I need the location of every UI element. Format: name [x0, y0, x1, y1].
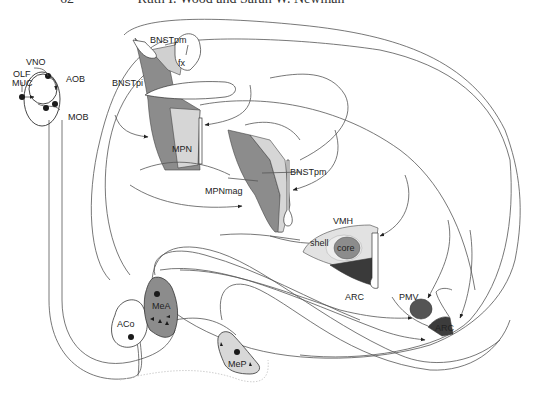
label-arc-pmv: ARC	[435, 323, 455, 333]
label-arc-vmh: ARC	[345, 292, 365, 302]
arc-pmv-border	[436, 288, 452, 318]
mob-dot	[43, 105, 49, 111]
mea-dot	[154, 291, 160, 297]
label-aco: ACo	[117, 319, 135, 329]
accessory-olfactory-bulb	[29, 74, 57, 104]
label-mep: MeP	[228, 359, 247, 369]
label-aob: AOB	[66, 74, 85, 84]
label-shell: shell	[310, 238, 329, 248]
pathway-mid-arc-branch	[270, 74, 348, 160]
label-bnstpi: BNSTpi	[112, 78, 143, 88]
arrow-to-vmh	[380, 175, 409, 236]
figure: 62 Ruth I. Wood and Sarah W. Newman	[0, 0, 536, 408]
label-pmv: PMV	[399, 292, 419, 302]
label-fx: fx	[178, 58, 186, 68]
label-vmh: VMH	[333, 216, 353, 226]
label-mpnmag: MPNmag	[205, 186, 243, 196]
mid-base-line	[220, 234, 300, 240]
aco-dot	[128, 334, 134, 340]
label-vno: VNO	[26, 57, 46, 67]
arrow-to-pmv	[428, 220, 450, 298]
arrow-mea-to-arc	[160, 268, 425, 340]
label-mea: MeA	[152, 301, 171, 311]
olf-dot	[19, 94, 25, 100]
label-bnstpm-mid: BNSTpm	[290, 167, 327, 177]
label-core: core	[337, 243, 355, 253]
third-ventricle-mpn	[199, 118, 202, 164]
label-muc: MUC	[12, 78, 33, 88]
label-mpn: MPN	[172, 144, 192, 154]
arrow-to-bnstpi	[115, 115, 148, 137]
pathway-mea-loop-2	[220, 284, 510, 370]
label-mob: MOB	[68, 112, 89, 122]
label-bnstpm-top: BNSTpm	[150, 35, 187, 45]
pmv-nucleus	[410, 299, 432, 319]
circuit-diagram: VNO OLF MUC AOB MOB BNSTpm fx BNSTpi MPN…	[0, 0, 536, 408]
aob-dot	[52, 101, 58, 107]
mep-dot	[234, 349, 240, 355]
arrow-to-arc	[460, 230, 472, 318]
